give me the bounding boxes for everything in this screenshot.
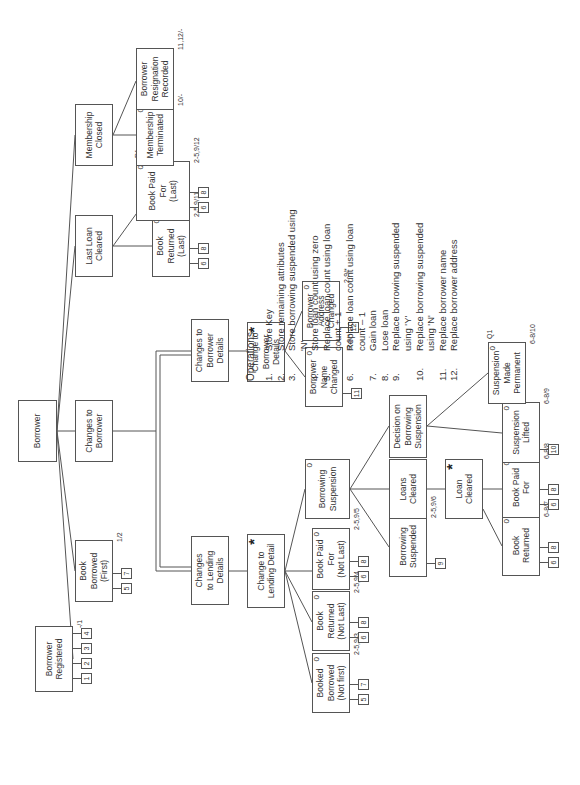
operation-box: 8 [548, 542, 559, 553]
operation-box: 8 [358, 556, 369, 567]
legend-text: Replace borrower name [437, 1, 449, 351]
node-book-paid-for: Book Paid For0 [502, 457, 540, 518]
op-connector [190, 248, 198, 249]
node-changes-to-lending-details: Changes to Lending Details [191, 536, 229, 605]
operation-box: 6 [198, 258, 209, 269]
op-connector [73, 633, 81, 634]
state-annotation: 6-8/9 [543, 388, 550, 404]
operations-legend: Operations1.Store Key2.Store remaining a… [245, 1, 460, 381]
op-connector [343, 393, 351, 394]
legend-text: Gain loan [367, 1, 379, 351]
node-last-loan-cleared: Last Loan Cleared [75, 215, 113, 277]
legend-text: Replace borrowing suspended using 'Y' [390, 1, 413, 351]
node-label: Book Returned (Not Last) [315, 602, 346, 639]
node-book-returned: Book Returned0 [502, 515, 540, 576]
operation-box: 10 [548, 444, 559, 455]
node-label: Borrower [32, 414, 42, 448]
op-connector [350, 561, 358, 562]
node-label: Borrower Registered [44, 638, 65, 679]
operation-box: 8 [548, 484, 559, 495]
node-label: Loans Cleared [398, 474, 419, 504]
node-label: Suspension Lifted [511, 410, 532, 454]
node-suspension-lifted: Suspension Lifted0 [502, 402, 540, 463]
legend-text: Replace loan count using loan count + 1 [321, 1, 344, 351]
node-changes-to-borrower-details: Changes to Borrower Details [191, 319, 229, 382]
legend-text: Store Key [263, 1, 275, 351]
legend-item: 3.Store borrowing suspended using 'N' [286, 1, 309, 381]
legend-number: 10. [414, 351, 437, 381]
node-label: Last Loan Cleared [84, 227, 105, 264]
node-label: Change to Lending Detail [256, 544, 277, 598]
iteration-asterisk-icon: * [444, 464, 459, 470]
node-label: Loan Cleared [454, 474, 475, 504]
legend-number: 12. [448, 351, 460, 381]
node-decision-on-borrowing-suspension: Decision on Borrowing Suspension [389, 395, 427, 458]
null-marker: 0 [489, 346, 497, 350]
operation-box: 11 [351, 388, 362, 399]
operation-box: 6 [548, 499, 559, 510]
operation-box: 2 [81, 658, 92, 669]
operation-box: 9 [435, 558, 446, 569]
op-connector [350, 576, 358, 577]
legend-text: Replace loan count using loan count – 1 [344, 1, 367, 351]
op-connector [190, 207, 198, 208]
op-connector [73, 663, 81, 664]
node-book-paid-for-not-last: Book Paid For (Not Last)0 [312, 528, 350, 590]
diagram-canvas: BorrowerBorrower Registered1234-/1Book B… [0, 0, 580, 785]
reference-label: Q1 [486, 330, 493, 339]
node-label: Booked Borrowed (Not first) [315, 665, 346, 701]
node-suspension-made-permanent: Suspension Made Permanent0 [488, 342, 526, 404]
op-connector [350, 637, 358, 638]
op-connector [113, 588, 121, 589]
operation-box: 6 [198, 202, 209, 213]
legend-item: 8.Lose loan [379, 1, 391, 381]
legend-number: 9. [390, 351, 413, 381]
null-marker: 0 [313, 595, 321, 599]
operation-box: 5 [121, 583, 132, 594]
legend-number: 1. [263, 351, 275, 381]
node-label: Changes to Borrower Details [194, 329, 225, 372]
node-label: Membership Closed [84, 112, 105, 159]
op-connector [540, 562, 548, 563]
node-borrower: Borrower [18, 400, 57, 462]
operation-box: 1 [81, 673, 92, 684]
operation-box: 7 [121, 568, 132, 579]
legend-item: 1.Store Key [263, 1, 275, 381]
node-label: Borrower Resignation Recorded [139, 57, 170, 102]
operation-box: 6 [358, 571, 369, 582]
legend-number: 3. [286, 351, 309, 381]
node-label: Book Returned [511, 528, 532, 563]
legend-number: 6. [344, 351, 367, 381]
op-connector [350, 699, 358, 700]
node-booked-borrowed-not-first: Booked Borrowed (Not first)0 [312, 653, 350, 713]
operation-box: 3 [81, 643, 92, 654]
legend-item: 11.Replace borrower name [437, 1, 449, 381]
operation-box: 4 [81, 628, 92, 639]
state-annotation: 10/- [177, 94, 184, 106]
node-borrower-resignation-recorded: Borrower Resignation Recorded [136, 48, 174, 110]
node-membership-closed: Membership Closed [75, 104, 113, 166]
node-label: Book Borrowed (First) [78, 553, 109, 589]
operation-box: 8 [198, 187, 209, 198]
op-connector [73, 648, 81, 649]
legend-text: Replace borrowing suspended using 'N' [414, 1, 437, 351]
op-connector [113, 573, 121, 574]
node-label: Decision on Borrowing Suspension [392, 404, 423, 448]
node-borrower-registered: Borrower Registered [35, 626, 73, 692]
node-label: Book Paid For (Not Last) [315, 540, 346, 579]
op-connector [540, 489, 548, 490]
node-label: Book Paid For [511, 468, 532, 507]
node-label: Borrowing Suspension [317, 467, 338, 511]
legend-item: 5.Replace loan count using loan count + … [321, 1, 344, 381]
operation-box: 6 [548, 557, 559, 568]
null-marker: 0 [313, 657, 321, 661]
operation-box: 8 [198, 243, 209, 254]
node-label: Changes to Borrower [84, 409, 105, 452]
null-marker: 0 [313, 532, 321, 536]
legend-text: Store remaining attributes [275, 1, 287, 351]
state-annotation: 2-5,9/5 [353, 508, 360, 530]
op-connector [190, 192, 198, 193]
legend-item: 9.Replace borrowing suspended using 'Y' [390, 1, 413, 381]
legend-text: Store borrowing suspended using 'N' [286, 1, 309, 351]
legend-text: Replace borrower address [448, 1, 460, 351]
